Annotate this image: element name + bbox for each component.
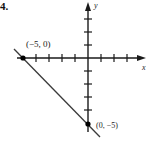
point-0-neg5 xyxy=(85,121,90,126)
y-axis-label: y xyxy=(93,1,98,10)
point-b-label: (0, −5) xyxy=(96,121,118,130)
point-a-label: (−5, 0) xyxy=(26,39,51,49)
x-axis-label: x xyxy=(141,63,146,72)
coordinate-plane: (−5, 0) (0, −5) y x xyxy=(0,0,148,145)
point-neg5-0 xyxy=(20,55,25,60)
x-axis-arrow-icon xyxy=(137,55,146,61)
graph-figure: 4. xyxy=(0,0,148,145)
problem-number: 4. xyxy=(0,0,8,12)
y-axis-arrow-icon xyxy=(85,2,91,11)
